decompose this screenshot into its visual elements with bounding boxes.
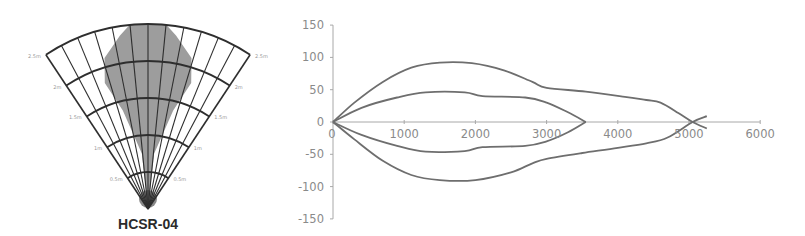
- y-tick-label: -150: [298, 212, 324, 226]
- range-label-left: 0.5m: [110, 176, 123, 182]
- sensor-model-title: HCSR-04: [118, 216, 178, 232]
- range-label-right: 1.5m: [214, 114, 227, 120]
- range-label-left: 1m: [94, 145, 102, 151]
- y-tick-label: -100: [298, 180, 324, 194]
- x-tick-label: 3000: [532, 127, 561, 141]
- x-tick-label: 4000: [603, 127, 632, 141]
- x-tick-label: 5000: [674, 127, 703, 141]
- fan-diagram-canvas: 0.5m0.5m1m1m1.5m1.5m2m2m2.5m2.5m HCSR-04: [0, 0, 300, 236]
- range-label-left: 2m: [53, 84, 61, 90]
- series-line-inner-upper: [333, 92, 586, 122]
- chart-canvas: 150100500-50-100-15001000200030004000500…: [290, 0, 805, 236]
- sensor-beam-fan-diagram: 0.5m0.5m1m1m1.5m1.5m2m2m2.5m2.5m HCSR-04: [0, 0, 300, 236]
- chart-axes: [330, 25, 760, 219]
- range-label-right: 1m: [194, 145, 202, 151]
- series-line-outer-lower: [333, 116, 707, 181]
- x-tick-label: 6000: [746, 127, 775, 141]
- range-label-left: 1.5m: [69, 114, 82, 120]
- range-label-right: 2.5m: [255, 53, 268, 59]
- y-tick-label: 100: [302, 50, 324, 64]
- range-label-left: 2.5m: [28, 53, 41, 59]
- range-label-right: 2m: [235, 84, 243, 90]
- y-tick-label: -50: [305, 147, 324, 161]
- y-tick-label: 150: [302, 18, 324, 32]
- y-tick-label: 0: [317, 115, 324, 129]
- range-label-right: 0.5m: [173, 176, 186, 182]
- x-tick-label: 0: [328, 127, 335, 141]
- x-tick-label: 2000: [461, 127, 490, 141]
- y-tick-label: 50: [309, 83, 324, 97]
- detection-range-line-chart: 150100500-50-100-15001000200030004000500…: [290, 0, 805, 236]
- series-line-outer-upper: [333, 62, 707, 128]
- x-tick-label: 1000: [390, 127, 419, 141]
